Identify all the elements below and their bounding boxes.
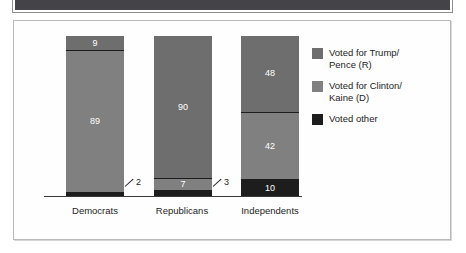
legend-item-label: Voted other xyxy=(329,113,378,125)
callout-leader-line-republicans xyxy=(213,179,222,187)
stacked-bar: 48 42 10 xyxy=(241,36,299,196)
plot-area: 9 89 2 2 90 xyxy=(44,29,304,221)
bar-group-independents[interactable]: 48 42 10 xyxy=(241,36,299,196)
bar-segment-clinton-kaine[interactable]: 7 xyxy=(154,179,212,191)
legend-swatch-icon xyxy=(312,81,323,92)
chart-frame: 9 89 2 2 90 xyxy=(13,20,451,240)
figure-header-band xyxy=(12,0,453,13)
bar-segment-trump-pence[interactable]: 48 xyxy=(241,36,299,113)
x-axis-label-republicans: Republicans xyxy=(132,206,232,216)
figure-root: 9 89 2 2 90 xyxy=(0,0,466,253)
legend-swatch-icon xyxy=(312,114,323,125)
legend-item-clinton-kaine[interactable]: Voted for Clinton/ Kaine (D) xyxy=(312,80,442,103)
legend-item-trump-pence[interactable]: Voted for Trump/ Pence (R) xyxy=(312,47,442,70)
bar-segment-clinton-kaine[interactable]: 89 xyxy=(66,51,124,193)
chart-legend: Voted for Trump/ Pence (R) Voted for Cli… xyxy=(312,47,442,135)
bar-segment-value: 90 xyxy=(178,103,188,112)
callout-label-republicans-other: 3 xyxy=(224,178,229,187)
legend-item-voted-other[interactable]: Voted other xyxy=(312,113,442,125)
bar-group-republicans[interactable]: 90 7 3 3 xyxy=(154,36,212,196)
bar-segment-value: 7 xyxy=(180,180,185,189)
x-axis-line xyxy=(44,196,302,197)
stacked-bar: 9 89 2 xyxy=(66,36,124,196)
bar-segment-voted-other[interactable]: 10 xyxy=(241,180,299,196)
x-axis-label-independents: Independents xyxy=(220,206,320,216)
bar-segment-value: 89 xyxy=(90,117,100,126)
legend-item-label: Voted for Clinton/ Kaine (D) xyxy=(329,80,402,103)
callout-leader-line-democrats xyxy=(125,179,134,187)
bar-segment-trump-pence[interactable]: 9 xyxy=(66,36,124,51)
bar-segment-voted-other[interactable]: 2 xyxy=(66,193,124,196)
bar-segment-value: 48 xyxy=(265,69,275,78)
bar-segment-voted-other[interactable]: 3 xyxy=(154,191,212,196)
bar-segment-clinton-kaine[interactable]: 42 xyxy=(241,113,299,180)
legend-item-label: Voted for Trump/ Pence (R) xyxy=(329,47,399,70)
callout-label-democrats-other: 2 xyxy=(136,178,141,187)
bar-segment-trump-pence[interactable]: 90 xyxy=(154,36,212,179)
header-band-fill xyxy=(15,0,450,10)
stacked-bar: 90 7 3 xyxy=(154,36,212,196)
x-axis-label-democrats: Democrats xyxy=(45,206,145,216)
bar-segment-value: 10 xyxy=(265,184,275,193)
bar-segment-value: 42 xyxy=(265,142,275,151)
bar-segment-value: 9 xyxy=(92,39,97,48)
bar-group-democrats[interactable]: 9 89 2 2 xyxy=(66,36,124,196)
legend-swatch-icon xyxy=(312,48,323,59)
